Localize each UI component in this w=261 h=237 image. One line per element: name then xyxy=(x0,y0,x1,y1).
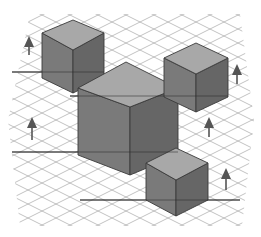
cubes-group xyxy=(12,20,240,216)
up-arrow-icon xyxy=(221,168,231,190)
grid-line xyxy=(0,166,261,237)
grid-line xyxy=(0,0,261,18)
up-arrow-icon xyxy=(232,64,242,84)
grid-line xyxy=(0,166,261,237)
grid-line xyxy=(0,236,261,237)
grid-line xyxy=(0,0,261,4)
diagram-canvas xyxy=(0,0,261,237)
cube-right xyxy=(164,43,228,112)
cube-bottom xyxy=(146,148,208,216)
grid-line xyxy=(0,222,261,237)
grid-line xyxy=(0,236,261,237)
grid-line xyxy=(0,0,261,4)
up-arrow-icon xyxy=(204,117,214,137)
isometric-cubes-diagram xyxy=(0,0,261,237)
grid-line xyxy=(0,0,261,18)
grid-line xyxy=(0,222,261,237)
